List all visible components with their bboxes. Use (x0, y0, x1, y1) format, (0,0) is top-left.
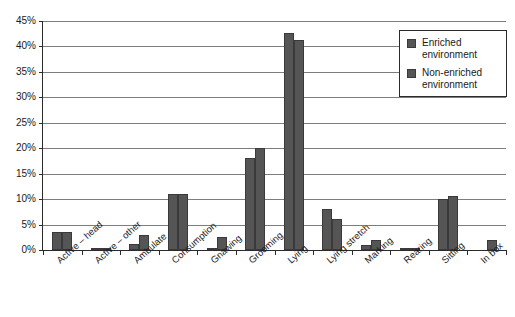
x-tick-mark (236, 250, 237, 255)
x-tick-mark (313, 250, 314, 255)
legend-swatch-icon (407, 39, 416, 48)
x-tick-mark (120, 250, 121, 255)
y-axis-tick-label: 45% (16, 16, 36, 26)
y-axis-tick-label: 15% (16, 169, 36, 179)
bar-group (207, 21, 227, 250)
legend-label: Non-enriched environment (422, 67, 500, 90)
bar (129, 244, 139, 250)
bar (255, 148, 265, 250)
y-axis-tick-label: 20% (16, 143, 36, 153)
bar-group (284, 21, 304, 250)
x-tick-mark (352, 250, 353, 255)
bar (168, 194, 178, 250)
bar (438, 199, 448, 250)
y-axis-tick-label: 40% (16, 41, 36, 51)
bar (294, 40, 304, 250)
y-axis-tick-label: 30% (16, 92, 36, 102)
bar (284, 33, 294, 250)
bar (52, 232, 62, 250)
bar-group (91, 21, 111, 250)
y-axis-tick-label: 10% (16, 194, 36, 204)
bar-group (168, 21, 188, 250)
x-tick-mark (390, 250, 391, 255)
legend-swatch-icon (407, 69, 416, 78)
legend-item: Non-enriched environment (407, 67, 500, 90)
bar-group (129, 21, 149, 250)
bar-group (52, 21, 72, 250)
x-tick-mark (82, 250, 83, 255)
bar (245, 158, 255, 250)
y-axis-tick-label: 35% (16, 67, 36, 77)
x-tick-mark (467, 250, 468, 255)
legend-item: Enriched environment (407, 37, 500, 60)
y-axis-tick-label: 5% (22, 220, 36, 230)
chart-legend: Enriched environment Non-enriched enviro… (399, 30, 507, 97)
x-tick-mark (506, 250, 507, 255)
x-tick-mark (429, 250, 430, 255)
y-axis-tick-label: 25% (16, 118, 36, 128)
bar-group (245, 21, 265, 250)
legend-label: Enriched environment (422, 37, 500, 60)
y-axis-tick-label: 0% (22, 245, 36, 255)
bar-chart: 0%5%10%15%20%25%30%35%40%45% Active – he… (0, 0, 515, 317)
bar-group (322, 21, 342, 250)
x-tick-mark (159, 250, 160, 255)
bar (322, 209, 332, 250)
x-tick-mark (275, 250, 276, 255)
x-tick-mark (43, 250, 44, 255)
bar-group (361, 21, 381, 250)
x-tick-mark (197, 250, 198, 255)
